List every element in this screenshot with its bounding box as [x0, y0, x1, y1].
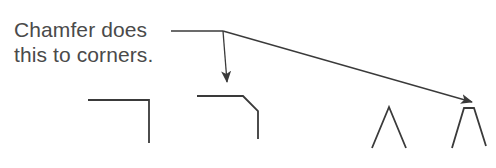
chamfer-diagram — [0, 0, 496, 168]
leader-lines — [171, 31, 472, 102]
leader-arrow-down — [223, 31, 227, 82]
chamfered-peak-shape — [452, 108, 486, 148]
sharp-peak-shape — [372, 107, 406, 148]
leader-arrow-right — [223, 31, 472, 102]
chamfered-corner-shape — [197, 96, 258, 139]
square-corner-shape — [88, 100, 149, 143]
